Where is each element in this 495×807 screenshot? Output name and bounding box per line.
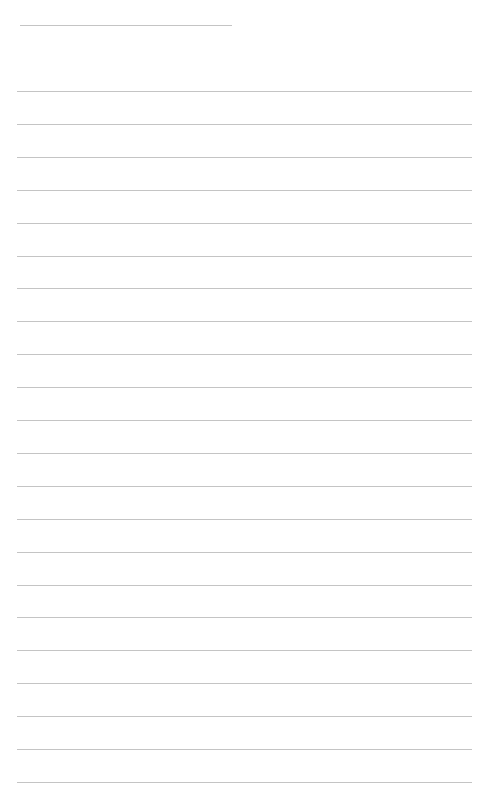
ruled-line: [17, 157, 472, 158]
ruled-line: [17, 256, 472, 257]
ruled-line: [17, 519, 472, 520]
ruled-line: [17, 420, 472, 421]
ruled-line: [17, 617, 472, 618]
ruled-line: [17, 190, 472, 191]
ruled-line: [17, 749, 472, 750]
ruled-line: [17, 387, 472, 388]
ruled-line: [17, 716, 472, 717]
ruled-line: [17, 453, 472, 454]
ruled-line: [17, 585, 472, 586]
ruled-line: [17, 124, 472, 125]
ruled-line: [17, 650, 472, 651]
ruled-line: [17, 486, 472, 487]
title-line: [20, 25, 232, 26]
ruled-line: [17, 321, 472, 322]
ruled-line: [17, 683, 472, 684]
ruled-line: [17, 288, 472, 289]
ruled-line: [17, 223, 472, 224]
ruled-line: [17, 354, 472, 355]
ruled-line: [17, 552, 472, 553]
ruled-line: [17, 91, 472, 92]
ruled-line: [17, 782, 472, 783]
